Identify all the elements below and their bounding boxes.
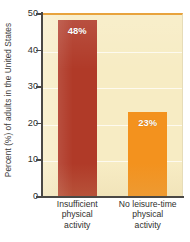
bar-value-label: 48% [58, 25, 97, 36]
category-label: No leisure-timephysicalactivity [113, 199, 184, 230]
x-axis-category-labels: InsufficientphysicalactivityNo leisure-t… [42, 199, 183, 242]
bar-chart-figure: Percent (%) of adults in the United Stat… [0, 0, 190, 242]
y-axis-tick-mark [36, 86, 41, 88]
category-label-line: physical [113, 209, 184, 219]
category-label-line: activity [113, 220, 184, 230]
y-axis-tick-mark [36, 159, 41, 161]
category-label-line: activity [42, 220, 113, 230]
y-axis-tick-labels: 01020304050 [17, 13, 40, 196]
y-axis-title: Percent (%) of adults in the United Stat… [0, 0, 16, 200]
category-label: Insufficientphysicalactivity [42, 199, 113, 230]
category-label-line: Insufficient [42, 199, 113, 209]
y-axis-line [41, 12, 43, 197]
bar-value-label: 23% [128, 117, 167, 128]
x-axis-line [41, 196, 184, 198]
y-axis-tick-mark [36, 50, 41, 52]
bar: 23% [128, 112, 167, 196]
y-axis-tick-mark [36, 123, 41, 125]
y-axis-tick-mark [36, 13, 41, 15]
y-axis-tick-mark [36, 196, 41, 198]
bar: 48% [58, 20, 97, 196]
y-axis-title-text: Percent (%) of adults in the United Stat… [3, 23, 13, 177]
plot-area: 48%23% [42, 13, 183, 196]
category-label-line: No leisure-time [113, 199, 184, 209]
category-label-line: physical [42, 209, 113, 219]
